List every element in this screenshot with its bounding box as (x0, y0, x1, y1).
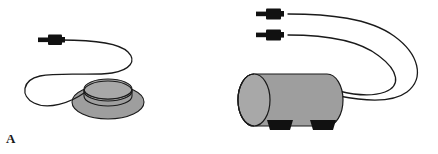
plug-connector-b1-collar (280, 11, 284, 17)
panel-a: A (0, 0, 219, 154)
plug-connector-a1-collar (61, 37, 65, 43)
figure-container: A (0, 0, 438, 154)
panel-a-illustration (0, 0, 219, 154)
panel-b: B (219, 0, 438, 154)
panel-b-illustration (219, 0, 438, 154)
plug-connector-b1-body (266, 9, 281, 20)
panel-a-label: A (6, 132, 15, 145)
plug-connector-a1-body (48, 35, 62, 46)
plug-connector-b2-body (266, 30, 281, 41)
cylinder-foot-left (267, 120, 293, 130)
cylinder-foot-right (310, 120, 336, 130)
disc-inner-ring-top (84, 79, 132, 99)
plug-connector-b2-collar (280, 32, 284, 38)
